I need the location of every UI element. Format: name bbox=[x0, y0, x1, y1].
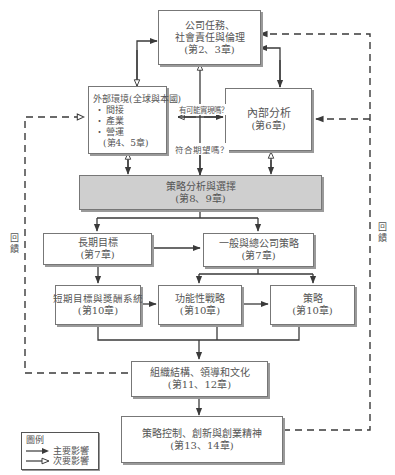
internal-chapter: (第6章) bbox=[251, 120, 285, 132]
node-short-term-objectives: 短期目標與獎酬系統 (第10章) bbox=[55, 285, 141, 325]
functional-title: 功能性戰略 bbox=[175, 293, 225, 305]
shortterm-title: 短期目標與獎酬系統 bbox=[53, 293, 143, 305]
edge-external-to-mission bbox=[137, 41, 157, 86]
solid-arrow-icon bbox=[26, 447, 50, 455]
mission-title-1: 公司任務、 bbox=[185, 20, 235, 32]
node-functional-tactics: 功能性戰略 (第10章) bbox=[158, 285, 242, 325]
longterm-chapter: (第7章) bbox=[80, 249, 114, 261]
legend-secondary-label: 次要影響 bbox=[53, 456, 89, 466]
functional-chapter: (第10章) bbox=[180, 305, 221, 317]
policies-chapter: (第10章) bbox=[292, 305, 333, 317]
longterm-title: 長期目標 bbox=[78, 237, 118, 249]
node-policies: 策略 (第10章) bbox=[270, 285, 355, 325]
legend-secondary: 次要影響 bbox=[26, 456, 94, 466]
generic-chapter: (第7章) bbox=[241, 250, 275, 262]
legend-primary-label: 主要影響 bbox=[53, 446, 89, 456]
mission-title-2: 社會責任與倫理 bbox=[175, 32, 245, 44]
structure-chapter: (第11、12章) bbox=[168, 379, 231, 391]
legend-primary: 主要影響 bbox=[26, 446, 94, 456]
shortterm-chapter: (第10章) bbox=[78, 305, 119, 317]
label-desired: 符合期望嗎？ bbox=[175, 143, 229, 155]
legend-title: 圖例 bbox=[26, 435, 94, 446]
node-structure-leadership-culture: 組織結構、領導和文化 (第11、12章) bbox=[131, 361, 268, 397]
generic-title: 一般與總公司策略 bbox=[219, 238, 299, 250]
internal-title: 內部分析 bbox=[247, 107, 291, 120]
node-external-environment: 外部環境(全球與本國) 間接 產業 營運 (第4、5章) bbox=[88, 86, 167, 154]
feedback-left-char-2: 饋 bbox=[10, 244, 19, 254]
hollow-arrow-icon bbox=[26, 457, 50, 465]
node-strategic-control: 策略控制、創新與創業精神 (第13、14章) bbox=[121, 416, 283, 463]
feedback-left-label: 回 饋 bbox=[9, 233, 19, 255]
label-possible: 有可能實現嗎？ bbox=[179, 104, 228, 115]
policies-title: 策略 bbox=[303, 293, 323, 305]
external-bullet-indirect: 間接 bbox=[93, 105, 124, 116]
edge-internal-to-mission bbox=[260, 48, 280, 87]
external-title: 外部環境(全球與本國) bbox=[93, 94, 181, 105]
external-bullet-industry: 產業 bbox=[93, 116, 124, 127]
control-title: 策略控制、創新與創業精神 bbox=[142, 428, 262, 440]
feedback-right-label: 回 饋 bbox=[377, 222, 387, 244]
node-mission: 公司任務、 社會責任與倫理 (第2、3章) bbox=[158, 10, 261, 65]
analysis-title: 策略分析與選擇 bbox=[166, 181, 236, 193]
node-strategic-analysis: 策略分析與選擇 (第8、9章) bbox=[79, 175, 322, 210]
external-bullet-operating: 營運 bbox=[93, 127, 124, 138]
feedback-left-char-1: 回 bbox=[10, 233, 19, 243]
node-internal-analysis: 內部分析 (第6章) bbox=[225, 88, 312, 151]
node-long-term-objectives: 長期目標 (第7章) bbox=[43, 233, 152, 265]
analysis-chapter: (第8、9章) bbox=[175, 193, 226, 205]
structure-title: 組織結構、領導和文化 bbox=[150, 367, 250, 379]
external-chapter: (第4、5章) bbox=[93, 138, 148, 149]
legend: 圖例 主要影響 次要影響 bbox=[21, 432, 99, 470]
feedback-right-char-1: 回 bbox=[378, 222, 387, 232]
feedback-right-char-2: 饋 bbox=[378, 233, 387, 243]
mission-chapter: (第2、3章) bbox=[184, 44, 235, 56]
node-generic-strategy: 一般與總公司策略 (第7章) bbox=[203, 233, 314, 267]
control-chapter: (第13、14章) bbox=[170, 440, 233, 452]
